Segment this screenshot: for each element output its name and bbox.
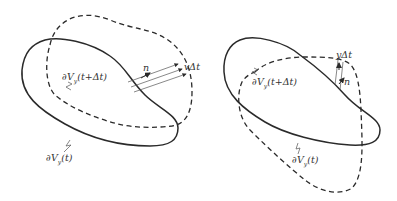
diagram-canvas: n vΔt ∂Vy(t+Δt) ∂Vy(t) yΔt n ∂Vy(t+Δt) ∂… — [0, 0, 397, 201]
right-solid-leader — [296, 143, 300, 154]
left-normal-arrow — [141, 73, 150, 78]
left-dashed-curve-label: ∂Vy(t+Δt) — [62, 71, 107, 85]
left-dashed-leader — [66, 82, 72, 90]
right-solid-boundary — [224, 38, 380, 145]
right-dashed-curve-label: ∂Vy(t) — [292, 154, 319, 168]
left-panel: n vΔt ∂Vy(t+Δt) ∂Vy(t) — [22, 15, 200, 166]
left-solid-leader — [64, 140, 71, 152]
right-solid-curve-label: ∂Vy(t+Δt) — [252, 76, 297, 90]
right-normal-label: n — [344, 76, 350, 87]
left-displacement-label: vΔt — [184, 61, 200, 72]
right-displacement-label: yΔt — [335, 49, 352, 60]
left-normal-label: n — [143, 62, 149, 73]
left-solid-curve-label: ∂Vy(t) — [46, 152, 73, 166]
left-solid-boundary — [22, 39, 178, 146]
left-displacement-vectors — [128, 64, 186, 92]
right-panel: yΔt n ∂Vy(t+Δt) ∂Vy(t) — [224, 38, 380, 192]
